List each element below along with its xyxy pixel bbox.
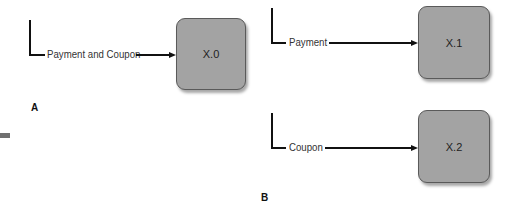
bracket-horizontal-a <box>29 54 45 56</box>
node-x1: X.1 <box>418 6 490 79</box>
node-x1-label: X.1 <box>446 37 463 49</box>
arrow-line-b2 <box>325 147 412 149</box>
flow-label-coupon: Coupon <box>289 141 323 153</box>
node-x0: X.0 <box>176 18 246 90</box>
flow-label-payment: Payment <box>289 36 327 48</box>
node-x0-label: X.0 <box>203 48 220 60</box>
node-x2-label: X.2 <box>446 141 463 153</box>
arrow-head-icon <box>411 145 418 151</box>
arrow-head-icon <box>169 52 176 58</box>
bracket-vertical-b2 <box>271 113 273 149</box>
bracket-horizontal-b2 <box>271 147 286 149</box>
bracket-vertical-b1 <box>271 8 273 44</box>
arrow-head-icon <box>411 40 418 46</box>
flow-label-payment-and-coupon: Payment and Coupon <box>47 48 140 60</box>
panel-label-a: A <box>31 102 38 113</box>
panel-label-b: B <box>261 192 268 203</box>
bracket-horizontal-b1 <box>271 42 286 44</box>
node-x2: X.2 <box>418 110 490 183</box>
arrow-line-a <box>136 54 170 56</box>
side-bar <box>0 133 10 138</box>
arrow-line-b1 <box>329 42 412 44</box>
bracket-vertical-a <box>29 20 31 56</box>
